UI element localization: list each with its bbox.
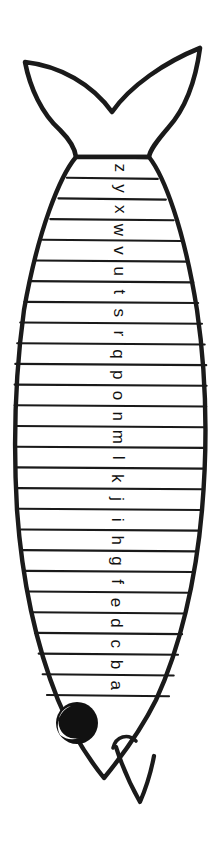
stripe-letter-h: h bbox=[108, 536, 127, 545]
stripe-divider-line bbox=[76, 157, 150, 158]
stripe-divider-line bbox=[23, 550, 195, 551]
stripe-divider-line bbox=[30, 281, 194, 282]
stripe-letter-a: a bbox=[107, 680, 126, 690]
worksheet-canvas: zyxwvutsrqponmlkjihgfedcba bbox=[0, 0, 222, 854]
stripe-letter-f: f bbox=[108, 579, 127, 584]
stripe-letter-g: g bbox=[108, 556, 127, 565]
stripe-letter-j: j bbox=[108, 496, 127, 501]
stripe-letter-m: m bbox=[109, 430, 128, 444]
stripe-letter-b: b bbox=[107, 660, 126, 669]
stripe-letter-i: i bbox=[108, 518, 127, 522]
stripe-letter-p: p bbox=[109, 370, 128, 379]
fish-illustration: zyxwvutsrqponmlkjihgfedcba bbox=[0, 0, 222, 854]
stripe-divider-line bbox=[43, 240, 181, 241]
stripe-letter-e: e bbox=[107, 598, 126, 607]
stripe-letter-r: r bbox=[110, 331, 129, 337]
stripe-letter-o: o bbox=[109, 391, 128, 400]
stripe-divider-line bbox=[43, 674, 174, 675]
stripe-divider-line bbox=[16, 447, 205, 448]
stripe-divider-line bbox=[21, 529, 198, 530]
stripe-divider-line bbox=[15, 426, 206, 427]
stripe-divider-line bbox=[28, 592, 189, 593]
stripe-letter-v: v bbox=[110, 246, 129, 255]
stripe-divider-line bbox=[35, 633, 182, 634]
stripe-divider-line bbox=[47, 695, 169, 696]
stripe-divider-line bbox=[26, 571, 193, 572]
stripe-letter-t: t bbox=[110, 290, 129, 295]
stripe-divider-line bbox=[19, 509, 200, 510]
stripe-letter-l: l bbox=[109, 456, 128, 460]
stripe-letter-z: z bbox=[111, 164, 130, 173]
stripe-divider-line bbox=[18, 488, 202, 489]
stripe-divider-line bbox=[17, 343, 205, 344]
stripe-letter-u: u bbox=[110, 267, 129, 276]
stripe-divider-line bbox=[36, 260, 188, 261]
stripe-divider-line bbox=[15, 385, 207, 386]
stripe-divider-line bbox=[39, 654, 178, 655]
stripe-divider-line bbox=[15, 405, 207, 406]
stripe-letter-c: c bbox=[107, 640, 126, 649]
stripe-divider-line bbox=[58, 198, 165, 199]
stripe-letter-n: n bbox=[109, 411, 128, 420]
stripe-divider-line bbox=[15, 364, 206, 365]
stripe-letter-s: s bbox=[110, 308, 129, 317]
stripe-divider-line bbox=[67, 178, 158, 179]
stripe-divider-line bbox=[32, 612, 186, 613]
stripe-divider-line bbox=[16, 467, 203, 468]
stripe-letter-q: q bbox=[109, 349, 128, 358]
stripe-divider-line bbox=[50, 219, 173, 220]
stripe-letter-w: w bbox=[110, 223, 129, 237]
stripe-divider-line bbox=[24, 302, 198, 303]
stripe-letter-x: x bbox=[111, 205, 130, 214]
eye bbox=[56, 702, 98, 744]
stripe-letter-k: k bbox=[108, 474, 127, 483]
stripe-letter-d: d bbox=[107, 618, 126, 627]
stripe-letter-y: y bbox=[111, 184, 130, 193]
stripe-divider-line bbox=[20, 323, 202, 324]
